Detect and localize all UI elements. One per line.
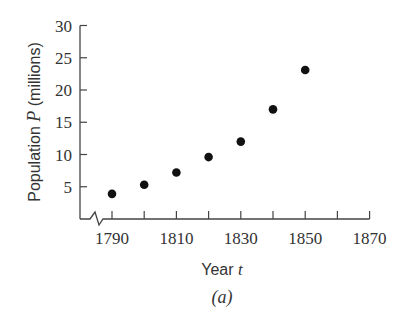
y-tick-label: 30 (55, 17, 72, 36)
data-point (301, 66, 310, 75)
x-tick-label: 1830 (224, 229, 258, 248)
x-axis-label: Year t (201, 260, 244, 279)
x-axis-line-with-break (80, 212, 370, 225)
data-point (140, 181, 149, 190)
data-point (237, 137, 246, 146)
scatter-chart: 5101520253017901810183018501870Year t(a)… (0, 0, 408, 326)
y-axis-label: Population P (millions) (24, 42, 44, 202)
data-point (204, 153, 213, 162)
x-tick-label: 1870 (353, 229, 387, 248)
y-tick-label: 15 (55, 113, 72, 132)
data-point (172, 168, 181, 177)
x-tick-label: 1790 (95, 229, 129, 248)
y-tick-label: 20 (55, 81, 72, 100)
y-tick-label: 5 (64, 178, 73, 197)
figure-caption: (a) (212, 287, 233, 308)
y-tick-label: 10 (55, 146, 72, 165)
x-tick-label: 1810 (159, 229, 193, 248)
y-tick-label: 25 (55, 49, 72, 68)
data-point (108, 190, 117, 199)
x-tick-label: 1850 (288, 229, 322, 248)
data-point (269, 105, 278, 114)
